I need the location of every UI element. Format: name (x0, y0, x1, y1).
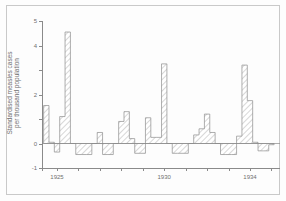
y-axis-title-line-2: per thousand population (13, 18, 20, 168)
x-tick-label: 1930 (158, 174, 171, 180)
y-tick-label: 5 (34, 18, 37, 24)
y-tick-label: 4 (34, 43, 37, 49)
y-tick-label: 2 (34, 92, 37, 98)
figure-root: Standardised measles cases per thousand … (0, 0, 286, 201)
y-tick-label: -1 (32, 165, 37, 171)
bar-chart-canvas (42, 18, 280, 170)
y-axis-title-line-1: Standardised measles cases (6, 18, 13, 168)
y-axis-title: Standardised measles cases per thousand … (6, 18, 18, 168)
bar-series-measles (42, 18, 280, 170)
measles-step-histogram (44, 32, 274, 155)
x-tick-label: 1925 (50, 174, 63, 180)
plot-area: Standardised measles cases per thousand … (42, 18, 280, 170)
y-tick-label: 0 (34, 141, 37, 147)
x-tick-label: 1934 (243, 174, 256, 180)
